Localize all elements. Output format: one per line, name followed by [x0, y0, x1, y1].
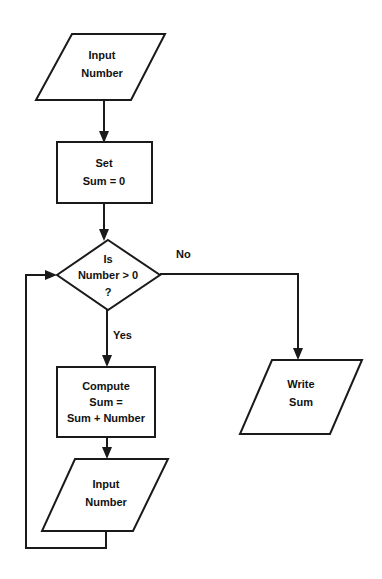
node-input-number-top-line2: Number: [81, 67, 123, 79]
branch-label-yes: Yes: [113, 329, 132, 341]
node-set-sum-line1: Set: [95, 157, 112, 169]
edge-set-sum-to-decision: [99, 203, 109, 241]
node-decision-number-greater-zero[interactable]: Is Number > 0 ?: [57, 240, 160, 310]
node-decision-line2: Number > 0: [78, 269, 138, 281]
node-input-number-bottom-line1: Input: [93, 478, 120, 490]
node-compute-sum-line3: Sum + Number: [67, 412, 146, 424]
node-input-number-top-line1: Input: [89, 49, 116, 61]
node-input-number-bottom-line2: Number: [85, 496, 127, 508]
node-input-number-top[interactable]: Input Number: [36, 34, 165, 100]
node-decision-line1: Is: [103, 253, 112, 265]
flowchart-svg: Input Number Set Sum = 0 Is Number > 0 ?…: [0, 0, 382, 579]
node-input-number-bottom[interactable]: Input Number: [42, 459, 168, 531]
node-set-sum-line2: Sum = 0: [83, 175, 126, 187]
arrowhead-icon: [102, 447, 112, 459]
node-set-sum[interactable]: Set Sum = 0: [57, 142, 152, 203]
node-write-sum-line1: Write: [287, 378, 314, 390]
node-write-sum-line2: Sum: [289, 396, 313, 408]
edge-decision-no-to-write-sum: [160, 274, 303, 360]
node-compute-sum-line1: Compute: [82, 380, 130, 392]
node-write-sum[interactable]: Write Sum: [240, 360, 362, 434]
arrowhead-icon: [45, 270, 57, 280]
branch-label-no: No: [176, 248, 191, 260]
rectangle-shape: [57, 142, 152, 203]
arrowhead-icon: [102, 355, 112, 367]
flowchart-canvas: Input Number Set Sum = 0 Is Number > 0 ?…: [0, 0, 382, 579]
node-compute-sum[interactable]: Compute Sum = Sum + Number: [57, 367, 155, 437]
node-compute-sum-line2: Sum =: [89, 396, 122, 408]
node-decision-line3: ?: [105, 286, 112, 298]
edge-input-top-to-set-sum: [99, 100, 109, 143]
arrowhead-icon: [293, 348, 303, 360]
edge-compute-to-input-bottom: [102, 437, 112, 459]
edge-decision-yes-to-compute: [102, 310, 112, 367]
